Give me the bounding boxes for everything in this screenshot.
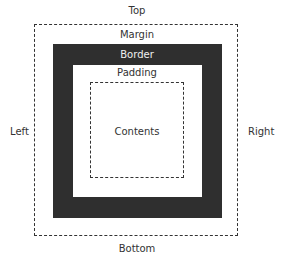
contents-label: Contents: [115, 126, 160, 138]
top-label: Top: [129, 5, 146, 17]
bottom-label: Bottom: [119, 243, 156, 255]
padding-label: Padding: [117, 67, 157, 79]
margin-label: Margin: [120, 29, 154, 41]
border-label: Border: [120, 49, 154, 61]
left-label: Left: [10, 126, 29, 138]
right-label: Right: [248, 126, 274, 138]
